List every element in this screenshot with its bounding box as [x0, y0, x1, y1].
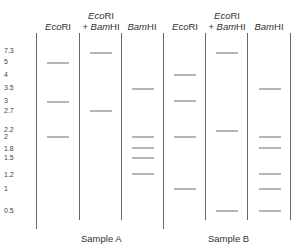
band-a-combo-2.7: [90, 110, 112, 112]
band-b-combo-7.3: [216, 52, 238, 54]
band-a-ecori-3: [47, 101, 69, 103]
size-tick: 1.8: [4, 145, 14, 153]
header-italic: Eco: [172, 21, 188, 32]
band-b-bamhi-1: [259, 188, 281, 190]
lane-header-a-ecori: EcoRI: [36, 21, 80, 32]
band-a-bamhi-1.5: [132, 157, 154, 159]
size-tick: 3.5: [4, 84, 14, 92]
size-tick: 1: [4, 185, 8, 193]
header-rest: RI: [188, 21, 198, 32]
lane-divider: [121, 33, 122, 220]
header-rest: RI: [230, 10, 240, 21]
band-b-bamhi-2: [259, 136, 281, 138]
header-rest: HI: [110, 21, 120, 32]
header-italic: Bam: [91, 21, 111, 32]
lane-divider: [163, 33, 164, 229]
band-b-ecori-4: [174, 74, 196, 76]
lane-divider: [79, 33, 80, 220]
size-tick: 4: [4, 71, 8, 79]
band-a-bamhi-2: [132, 136, 154, 138]
size-tick: 5: [4, 58, 8, 66]
lane-divider: [205, 33, 206, 220]
band-a-combo-7.3: [90, 52, 112, 54]
sample-b-label: Sample B: [208, 233, 249, 244]
band-b-ecori-1: [174, 188, 196, 190]
lane-divider: [290, 33, 291, 220]
header-italic: Bam: [217, 21, 237, 32]
size-tick: 7.3: [4, 47, 14, 55]
size-tick: 1.5: [4, 154, 14, 162]
lane-header-b-ecori: EcoRI: [163, 21, 207, 32]
header-rest: RI: [61, 21, 71, 32]
band-b-bamhi-0.5: [259, 210, 281, 212]
size-tick: 2: [4, 133, 8, 141]
band-a-ecori-2: [47, 136, 69, 138]
lane-header-b-bamhi: BamHI: [247, 21, 291, 32]
header-italic: Eco: [214, 10, 230, 21]
band-b-bamhi-1.2: [259, 173, 281, 175]
lane-divider: [247, 33, 248, 220]
size-tick: 0.5: [4, 207, 14, 215]
band-b-ecori-2: [174, 136, 196, 138]
header-rest: HI: [147, 21, 157, 32]
header-prefix: +: [208, 21, 216, 32]
band-a-ecori-5: [47, 62, 69, 64]
lane-header-a-bamhi: BamHI: [120, 21, 164, 32]
lane-divider: [36, 33, 37, 229]
band-a-bamhi-1.8: [132, 147, 154, 149]
header-rest: HI: [274, 21, 284, 32]
band-a-bamhi-3.5: [132, 88, 154, 90]
band-b-combo-2.2: [216, 130, 238, 132]
band-b-bamhi-1.8: [259, 147, 281, 149]
size-tick: 2.7: [4, 107, 14, 115]
header-italic: Eco: [45, 21, 61, 32]
header-rest: RI: [104, 10, 114, 21]
band-b-ecori-3: [174, 100, 196, 102]
lane-header-a-ecori-bamhi: EcoRI + BamHI: [79, 10, 123, 32]
header-italic: Eco: [88, 10, 104, 21]
header-italic: Bam: [254, 21, 274, 32]
header-italic: Bam: [127, 21, 147, 32]
band-b-combo-0.5: [216, 210, 238, 212]
band-a-bamhi-1.2: [132, 173, 154, 175]
size-tick: 1.2: [4, 171, 14, 179]
header-prefix: +: [82, 21, 90, 32]
band-b-bamhi-3.5: [259, 88, 281, 90]
lane-header-b-ecori-bamhi: EcoRI + BamHI: [205, 10, 249, 32]
header-rest: HI: [236, 21, 246, 32]
size-tick: 3: [4, 97, 8, 105]
sample-a-label: Sample A: [81, 233, 122, 244]
